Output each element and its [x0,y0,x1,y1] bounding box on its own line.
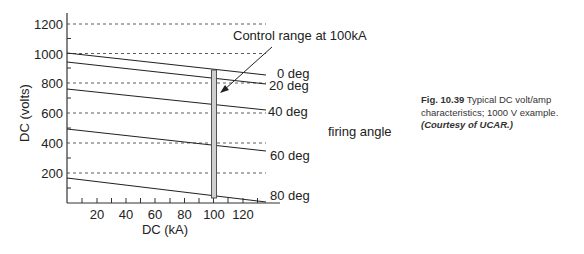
series-line-0deg [67,53,266,75]
x-tick-label: 80 [177,207,191,222]
control-range-bar [212,70,217,198]
series-label: 20 deg [269,78,309,93]
y-tick-label: 1200 [34,17,63,32]
figure-caption: Fig. 10.39 Typical DC volt/amp character… [421,94,583,132]
x-tick-label: 60 [148,207,162,222]
gridlines [67,24,266,173]
series-label: 60 deg [270,148,310,163]
y-tick-label: 200 [41,166,63,181]
y-tick-label: 400 [41,136,63,151]
y-tick-labels: 1200 1000 800 600 400 200 [34,17,63,181]
x-tick-labels: 20 40 60 80 100 120 [90,207,254,222]
series-line-60deg [67,129,266,151]
firing-angle-label: firing angle [328,124,392,139]
series-label: 80 deg [270,188,310,203]
y-axis-title: DC (volts) [17,84,32,142]
y-tick-label: 1000 [34,47,63,62]
series-line-40deg [67,89,266,110]
figure-number: Fig. 10.39 [421,94,464,105]
x-tick-label: 40 [119,207,133,222]
series-lines [67,53,266,202]
caption-courtesy: (Courtesy of UCAR.) [421,119,583,132]
x-tick-label: 120 [232,207,254,222]
x-tick-label: 20 [90,207,104,222]
series-label: 40 deg [268,104,308,119]
x-ticks [82,198,258,203]
series-line-20deg [67,62,266,84]
y-tick-label: 800 [41,76,63,91]
control-range-annotation: Control range at 100kA [233,28,367,43]
arrow-icon [220,47,272,93]
x-axis-title: DC (kA) [142,222,188,237]
x-tick-label: 100 [203,207,225,222]
series-labels: 0 deg 20 deg 40 deg 60 deg 80 deg [268,66,310,203]
y-tick-label: 600 [41,106,63,121]
